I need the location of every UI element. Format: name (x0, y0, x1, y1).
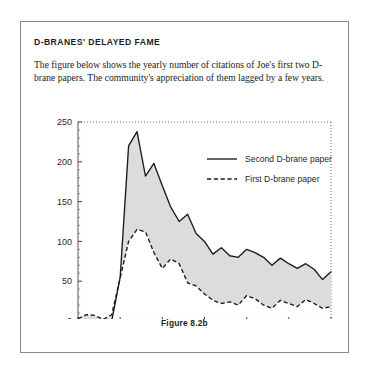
legend-label: First D-brane paper (245, 174, 320, 184)
chart-svg: 050100150200250 199019952000200520102015… (21, 104, 348, 319)
body-paragraph: The figure below shows the yearly number… (34, 58, 336, 85)
legend-label: Second D-brane paper (245, 154, 332, 164)
page-title: D-BRANES' DELAYED FAME (34, 37, 160, 47)
chart-legend: Second D-brane paperFirst D-brane paper (207, 154, 332, 184)
figure-box: D-BRANES' DELAYED FAME The figure below … (20, 21, 349, 353)
y-tick-label: 250 (57, 117, 72, 127)
citations-chart: 050100150200250 199019952000200520102015… (21, 104, 348, 319)
y-tick-label: 50 (62, 276, 72, 286)
y-tick-label: 100 (57, 237, 72, 247)
y-tick-label: 150 (57, 197, 72, 207)
page-root: D-BRANES' DELAYED FAME The figure below … (0, 0, 369, 379)
y-axis-tick-labels: 050100150200250 (57, 117, 72, 319)
figure-caption: Figure 8.2b (21, 318, 348, 328)
y-tick-label: 200 (57, 157, 72, 167)
